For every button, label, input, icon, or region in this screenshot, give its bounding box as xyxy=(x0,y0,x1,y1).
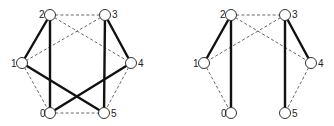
node-label-2: 2 xyxy=(220,9,226,20)
node-label-0: 0 xyxy=(221,108,227,119)
right-graph: 012345 xyxy=(193,9,324,119)
node-4 xyxy=(126,58,137,69)
dashed-edge-3-1 xyxy=(22,15,105,63)
node-label-5: 5 xyxy=(111,108,117,119)
node-2 xyxy=(226,10,237,21)
node-4 xyxy=(306,58,317,69)
dashed-edge-4-5 xyxy=(285,63,311,113)
node-3 xyxy=(280,10,291,21)
solid-edge-3-4 xyxy=(285,15,311,63)
solid-edge-3-5 xyxy=(104,15,105,113)
node-2 xyxy=(45,10,56,21)
node-0 xyxy=(226,108,237,119)
node-3 xyxy=(100,10,111,21)
node-label-3: 3 xyxy=(292,9,298,20)
node-label-5: 5 xyxy=(292,108,298,119)
node-label-2: 2 xyxy=(39,9,45,20)
dashed-edge-1-0 xyxy=(204,63,231,113)
node-label-4: 4 xyxy=(318,58,324,69)
graph-diagram: 012345 012345 xyxy=(0,0,334,126)
node-1 xyxy=(17,58,28,69)
node-5 xyxy=(99,108,110,119)
left-graph: 012345 xyxy=(11,9,144,119)
node-label-1: 1 xyxy=(193,58,199,69)
solid-edge-2-1 xyxy=(204,15,231,63)
node-1 xyxy=(199,58,210,69)
solid-edge-2-1 xyxy=(22,15,50,63)
node-5 xyxy=(280,108,291,119)
node-label-0: 0 xyxy=(40,108,46,119)
node-0 xyxy=(45,108,56,119)
node-label-1: 1 xyxy=(11,58,17,69)
node-label-3: 3 xyxy=(112,9,118,20)
node-label-4: 4 xyxy=(138,58,144,69)
